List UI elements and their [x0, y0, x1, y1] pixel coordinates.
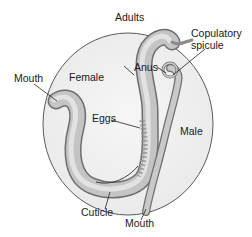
label-anus: Anus: [134, 62, 158, 73]
label-eggs: Eggs: [92, 113, 116, 124]
label-mouth-female: Mouth: [14, 73, 43, 84]
label-spicule: spicule: [191, 40, 224, 51]
label-male: Male: [180, 126, 203, 137]
label-mouth-male: Mouth: [125, 218, 154, 229]
label-female: Female: [69, 72, 104, 83]
label-cuticle: Cuticle: [81, 207, 113, 218]
title-adults: Adults: [115, 12, 144, 23]
label-copulatory: Copulatory: [191, 28, 242, 39]
